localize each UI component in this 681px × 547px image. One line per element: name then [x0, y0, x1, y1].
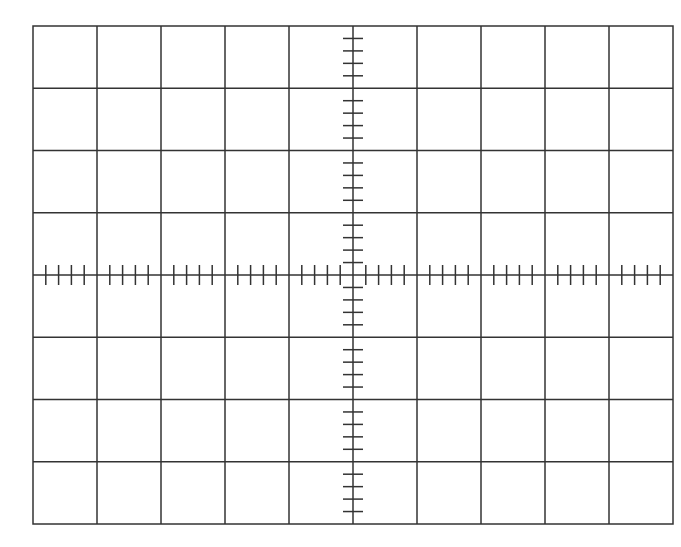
oscilloscope-graticule: [0, 0, 681, 547]
